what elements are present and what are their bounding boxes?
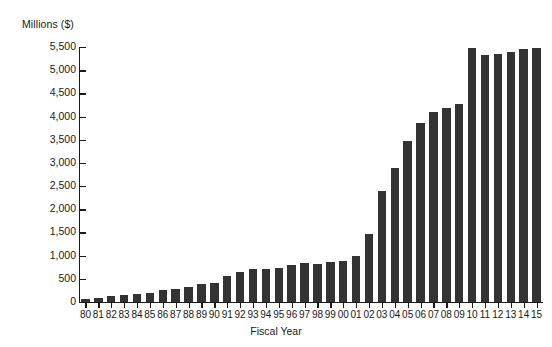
bar-column — [120, 47, 129, 302]
x-tick-label: 13 — [504, 309, 517, 320]
bar-column — [378, 47, 387, 302]
bar-05 — [403, 141, 412, 302]
y-tick-label: 500 — [58, 272, 76, 284]
bar-92 — [236, 272, 245, 302]
x-tick-mark — [446, 303, 447, 308]
y-tick-label: 4,000 — [50, 110, 76, 122]
x-tick-label: 90 — [208, 309, 221, 320]
x-tick-label: 08 — [440, 309, 453, 320]
bar-column — [519, 47, 528, 302]
plot-area — [79, 47, 543, 302]
bar-column — [262, 47, 271, 302]
bar-93 — [249, 269, 258, 302]
bar-column — [365, 47, 374, 302]
bar-chart-figure: Millions ($) 5,5005,0004,5004,0003,5003,… — [0, 0, 552, 347]
bar-column — [249, 47, 258, 302]
bar-column — [494, 47, 503, 302]
x-tick-mark — [408, 303, 409, 308]
x-tick-mark — [201, 303, 202, 308]
x-tick-mark — [240, 303, 241, 308]
x-tick-label: 95 — [272, 309, 285, 320]
x-tick-label: 91 — [221, 309, 234, 320]
x-tick-label: 87 — [169, 309, 182, 320]
y-tick-label: 0 — [70, 295, 76, 307]
bar-88 — [184, 287, 193, 302]
x-tick-mark — [266, 303, 267, 308]
bar-89 — [197, 284, 206, 302]
x-tick-mark — [395, 303, 396, 308]
x-tick-label: 01 — [350, 309, 363, 320]
x-tick-label: 99 — [324, 309, 337, 320]
x-axis-title: Fiscal Year — [0, 325, 552, 337]
bar-column — [326, 47, 335, 302]
bar-column — [146, 47, 155, 302]
y-tick-label: 5,000 — [50, 63, 76, 75]
x-tick-mark — [537, 303, 538, 308]
x-tick-mark — [292, 303, 293, 308]
x-tick-mark — [369, 303, 370, 308]
x-tick-label: 88 — [182, 309, 195, 320]
bar-14 — [519, 49, 528, 302]
y-tick-label: 2,000 — [50, 202, 76, 214]
bar-10 — [468, 48, 477, 302]
x-tick-label: 02 — [363, 309, 376, 320]
x-tick-label: 81 — [92, 309, 105, 320]
x-tick-label: 82 — [105, 309, 118, 320]
bar-column — [507, 47, 516, 302]
bar-column — [81, 47, 90, 302]
x-tick-mark — [189, 303, 190, 308]
bar-column — [339, 47, 348, 302]
x-tick-label: 92 — [234, 309, 247, 320]
x-tick-label: 05 — [401, 309, 414, 320]
x-tick-label: 10 — [466, 309, 479, 320]
bar-09 — [455, 104, 464, 302]
x-tick-mark — [472, 303, 473, 308]
y-tick-label: 4,500 — [50, 86, 76, 98]
x-tick-label: 14 — [517, 309, 530, 320]
bar-11 — [481, 55, 490, 302]
bar-97 — [300, 263, 309, 302]
x-tick-label: 98 — [311, 309, 324, 320]
x-tick-mark — [85, 303, 86, 308]
bar-15 — [532, 48, 541, 302]
x-tick-mark — [511, 303, 512, 308]
x-tick-label: 06 — [414, 309, 427, 320]
x-tick-label: 12 — [491, 309, 504, 320]
y-axis-title: Millions ($) — [22, 18, 74, 30]
bar-column — [391, 47, 400, 302]
bar-column — [107, 47, 116, 302]
x-tick-mark — [317, 303, 318, 308]
y-tick-label: 5,500 — [50, 40, 76, 52]
bar-86 — [159, 290, 168, 302]
x-tick-mark — [382, 303, 383, 308]
bar-02 — [365, 234, 374, 302]
bar-13 — [507, 52, 516, 302]
bar-column — [352, 47, 361, 302]
bar-column — [197, 47, 206, 302]
bar-91 — [223, 276, 232, 302]
bar-column — [223, 47, 232, 302]
bar-03 — [378, 191, 387, 302]
x-tick-label: 89 — [195, 309, 208, 320]
x-tick-mark — [459, 303, 460, 308]
bar-column — [455, 47, 464, 302]
bar-85 — [146, 293, 155, 302]
bar-01 — [352, 256, 361, 302]
bar-82 — [107, 296, 116, 302]
x-tick-mark — [330, 303, 331, 308]
x-axis-line — [79, 302, 543, 303]
x-tick-mark — [227, 303, 228, 308]
x-tick-mark — [279, 303, 280, 308]
x-tick-label: 93 — [247, 309, 260, 320]
bar-99 — [326, 262, 335, 302]
x-tick-mark — [305, 303, 306, 308]
bar-00 — [339, 261, 348, 302]
x-tick-mark — [485, 303, 486, 308]
x-tick-mark — [111, 303, 112, 308]
x-tick-mark — [343, 303, 344, 308]
x-tick-label: 04 — [388, 309, 401, 320]
bar-98 — [313, 264, 322, 302]
bar-95 — [275, 268, 284, 302]
x-tick-mark — [214, 303, 215, 308]
x-tick-label: 97 — [298, 309, 311, 320]
